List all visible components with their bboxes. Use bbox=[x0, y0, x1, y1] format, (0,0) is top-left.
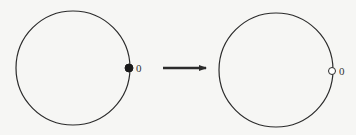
right-point-label: 0 bbox=[339, 65, 345, 77]
left-circle bbox=[16, 11, 130, 125]
left-point-label: 0 bbox=[136, 62, 142, 74]
open-point-marker bbox=[329, 68, 336, 75]
filled-point-marker bbox=[125, 64, 133, 72]
circle-puncture-diagram: 0 0 bbox=[0, 0, 356, 135]
right-circle bbox=[219, 13, 333, 127]
